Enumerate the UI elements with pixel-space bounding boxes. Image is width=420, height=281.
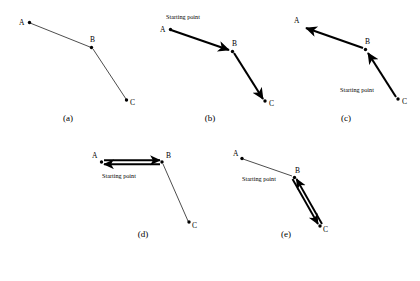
vertex-c-B-label: B [365, 37, 370, 46]
vertex-c-A-label: A [294, 16, 300, 25]
vertex-e-C-dot [318, 224, 321, 227]
vertex-d-C-dot [187, 220, 190, 223]
vertex-e-C-label: C [323, 225, 328, 234]
edge-b-ab [171, 30, 229, 50]
vertex-e-A-label: A [233, 149, 239, 158]
vertex-d-B-label: B [166, 151, 171, 160]
edge-b-bc [234, 53, 263, 99]
starting-point-label-d: Starting point [102, 172, 136, 179]
vertex-b-C-label: C [269, 99, 274, 108]
vertex-b-B-label: B [232, 39, 237, 48]
vertex-c-C-label: C [402, 97, 407, 106]
vertex-e-B-label: B [295, 166, 300, 175]
edge-e-ab [243, 159, 292, 176]
vertex-d-A-label: A [92, 151, 98, 160]
vertex-c-B-dot [364, 48, 367, 51]
vertex-a-A-dot [28, 21, 31, 24]
vertex-b-B-dot [231, 50, 234, 53]
panel-c: A B C Starting point [288, 8, 418, 113]
caption-c: (c) [326, 113, 366, 123]
edge-e-cb-backward [297, 179, 323, 224]
vertex-e-A-dot [240, 157, 243, 160]
vertex-a-B-label: B [90, 35, 95, 44]
vertex-e-B-dot [293, 176, 296, 179]
edge-a-ab [30, 23, 90, 47]
vertex-c-C-dot [396, 97, 399, 100]
edge-a-bc [93, 49, 126, 99]
edge-d-bc [163, 164, 188, 221]
vertex-b-A-dot [169, 28, 172, 31]
edge-c-ba [306, 28, 363, 48]
panel-b: A B C Starting point [155, 8, 285, 113]
panel-e-diagram: A B C Starting point [228, 148, 358, 238]
panel-a: A B C [14, 8, 144, 113]
figure-canvas: A B C (a) A B C Starting point (b) [0, 0, 420, 281]
vertex-b-A-label: A [160, 25, 166, 34]
caption-d: (d) [123, 229, 163, 239]
starting-point-label-c: Starting point [340, 86, 374, 93]
vertex-b-C-dot [263, 99, 266, 102]
caption-e: (e) [266, 229, 306, 239]
vertex-a-C-label: C [130, 98, 135, 107]
vertex-a-C-dot [125, 98, 128, 101]
panel-d-diagram: A B C Starting point [84, 148, 214, 238]
vertex-d-A-dot [100, 160, 103, 163]
edge-e-bc-forward [293, 179, 319, 224]
vertex-d-B-dot [160, 160, 163, 163]
panel-d: A B C Starting point [84, 148, 214, 238]
panel-b-diagram: A B C Starting point [155, 8, 285, 113]
panel-c-diagram: A B C Starting point [288, 8, 418, 113]
caption-a: (a) [48, 113, 88, 123]
starting-point-label-b: Starting point [166, 13, 200, 20]
starting-point-label-e: Starting point [242, 175, 276, 182]
caption-b: (b) [190, 113, 230, 123]
panel-e: A B C Starting point [228, 148, 358, 238]
vertex-d-C-label: C [192, 221, 197, 230]
panel-a-diagram: A B C [14, 8, 144, 113]
vertex-a-B-dot [90, 46, 93, 49]
vertex-a-A-label: A [19, 18, 25, 27]
